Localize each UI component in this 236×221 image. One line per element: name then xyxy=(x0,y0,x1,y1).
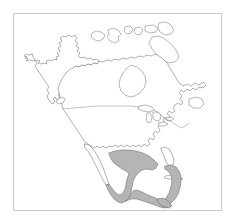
range-map-figure xyxy=(0,0,236,221)
newfoundland-island xyxy=(189,97,204,108)
baja-california-peninsula xyxy=(85,144,109,185)
florida-peninsula xyxy=(161,147,174,166)
arctic-island-victoria xyxy=(107,28,121,43)
arctic-island-ellesmere xyxy=(158,22,174,35)
north-america-map xyxy=(13,13,222,211)
arctic-island-devon xyxy=(145,25,158,33)
arctic-island-banks xyxy=(91,31,105,41)
arctic-island-somerset xyxy=(134,27,143,35)
range-shade-yucatan xyxy=(165,165,181,205)
lake-erie xyxy=(158,122,168,126)
arctic-island-prince-of-wales xyxy=(124,26,133,34)
lake-ontario xyxy=(166,117,174,121)
